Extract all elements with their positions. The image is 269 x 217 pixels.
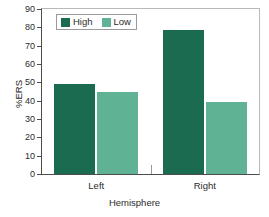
y-axis-tick-mark — [37, 27, 42, 28]
bar-high-right — [163, 30, 204, 174]
bar-group — [163, 9, 247, 174]
x-axis-tick-label: Left — [42, 180, 151, 191]
y-axis-tick-mark — [37, 119, 42, 120]
y-axis-tick-label: 30 — [1, 115, 35, 124]
y-axis-tick-label: 0 — [1, 170, 35, 179]
y-axis-tick-mark — [37, 156, 42, 157]
y-axis-title: %ERS — [13, 80, 24, 108]
y-axis-tick-mark — [37, 137, 42, 138]
bar-low-right — [206, 102, 247, 174]
x-axis-minor-tick — [151, 165, 152, 174]
bar-high-left — [54, 84, 95, 174]
legend-swatch-low — [102, 18, 111, 27]
y-axis-tick-label: 20 — [1, 133, 35, 142]
legend-entry-low: Low — [102, 17, 131, 27]
y-axis-tick-mark — [37, 101, 42, 102]
legend-label: Low — [114, 17, 131, 27]
y-axis-tick-label: 90 — [1, 5, 35, 14]
bar-chart: 0102030405060708090 %ERS Hemisphere High… — [0, 0, 269, 217]
y-axis-tick-mark — [37, 46, 42, 47]
plot-area: 0102030405060708090 — [42, 9, 259, 174]
y-axis-tick-mark — [37, 9, 42, 10]
x-axis-title: Hemisphere — [0, 197, 269, 208]
y-axis-tick-label: 80 — [1, 23, 35, 32]
bar-low-left — [97, 92, 138, 174]
y-axis-tick-label: 10 — [1, 152, 35, 161]
y-axis-tick-label: 70 — [1, 42, 35, 51]
y-axis-tick-mark — [37, 82, 42, 83]
x-axis-tick-label: Right — [151, 180, 260, 191]
legend-entry-high: High — [61, 17, 93, 27]
y-axis-tick-mark — [37, 64, 42, 65]
bar-group — [54, 9, 138, 174]
y-axis-tick-mark — [37, 174, 42, 175]
y-axis-tick-label: 60 — [1, 60, 35, 69]
legend-label: High — [73, 17, 93, 27]
legend-swatch-high — [61, 18, 70, 27]
plot-frame: 0102030405060708090 %ERS — [41, 8, 260, 175]
chart-legend: HighLow — [56, 14, 137, 30]
